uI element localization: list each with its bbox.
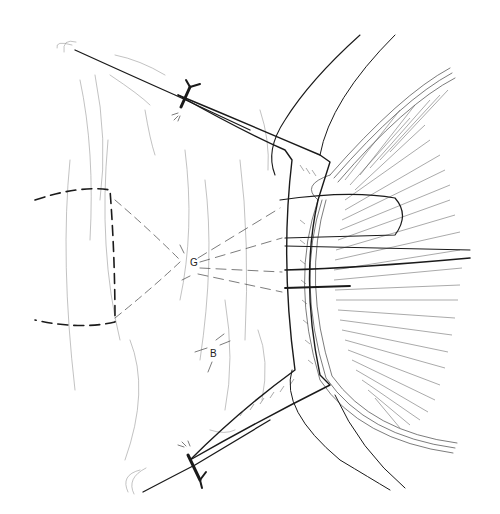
corner-sutures	[75, 50, 270, 492]
marker-lower: B	[195, 334, 230, 372]
radial-hatching	[334, 90, 462, 428]
muscle-flap	[178, 95, 330, 460]
marker-upper: G	[180, 245, 198, 280]
dashed-incision-lines	[35, 189, 282, 326]
illustration-canvas: G B	[0, 0, 500, 514]
marker-lower-label: B	[210, 348, 217, 359]
conjunctival-folds	[57, 41, 269, 494]
surgical-illustration: G B	[0, 0, 500, 514]
marker-upper-label: G	[190, 257, 198, 268]
sutures	[272, 35, 470, 490]
